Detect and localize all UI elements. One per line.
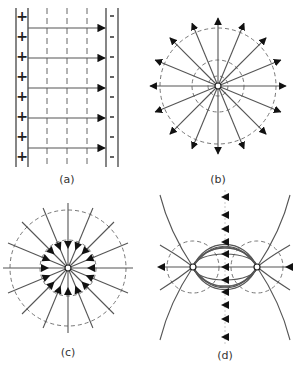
charge-right-icon [254,264,260,270]
positive-charge-icon [215,83,221,89]
svg-text:+: + [16,8,28,24]
svg-text:+: + [16,88,28,104]
svg-text:+: + [16,128,28,144]
minus-signs [110,16,114,157]
svg-text:+: + [16,108,28,124]
panel-d-label: (d) [217,349,233,362]
svg-text:+: + [16,28,28,44]
charge-left-icon [190,264,196,270]
plus-signs: ++++ ++++ [16,8,28,164]
panel-a-parallel-plates: ++++ ++++ (a) [16,8,118,186]
panel-b-label: (b) [210,173,226,186]
panel-c-label: (c) [61,346,76,359]
panel-d-dipole [157,190,293,345]
panel-a-label: (a) [59,173,74,186]
negative-charge-icon [65,265,71,271]
panel-c-negative-charge [3,203,133,333]
svg-text:+: + [16,68,28,84]
svg-text:+: + [16,148,28,164]
panel-b-positive-charge [150,18,286,154]
electric-field-figure: ++++ ++++ (a) [0,0,300,366]
svg-text:+: + [16,48,28,64]
